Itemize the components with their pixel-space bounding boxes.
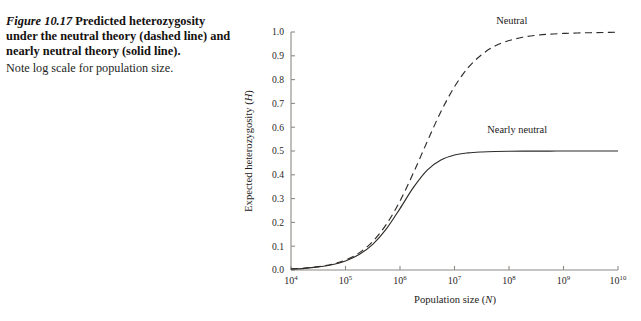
heterozygosity-line-chart: 0.00.10.20.30.40.50.60.70.80.91.0 104105… [0,0,641,321]
curve-nearly-neutral [291,151,618,269]
x-tick-label: 108 [502,274,516,286]
x-axis-tick-labels: 1041051061071081091010 [284,274,627,286]
y-axis-tick-labels: 0.00.10.20.30.40.50.60.70.80.91.0 [272,26,284,275]
y-tick-label: 0.8 [272,74,284,85]
y-tick-label: 0.4 [272,169,284,180]
y-tick-label: 0.7 [272,98,284,109]
x-tick-label: 106 [393,274,407,286]
x-tick-label: 1010 [610,274,627,286]
x-tick-label: 107 [448,274,462,286]
chart-area: 0.00.10.20.30.40.50.60.70.80.91.0 104105… [0,0,641,321]
y-axis-ticks [291,32,295,270]
y-tick-label: 0.9 [272,50,284,61]
series-label-neutral: Neutral [496,15,527,26]
x-tick-label: 105 [339,274,353,286]
y-tick-label: 0.0 [272,264,284,275]
figure-container: Figure 10.17 Predicted heterozygosity un… [0,0,641,321]
y-axis-title: Expected heterozygosity (H) [243,90,255,212]
y-tick-label: 1.0 [272,26,284,37]
y-tick-label: 0.1 [272,241,284,252]
y-tick-label: 0.5 [272,145,284,156]
y-tick-label: 0.2 [272,217,284,228]
y-tick-label: 0.6 [272,122,284,133]
series-label-nearly-neutral: Nearly neutral [487,124,547,135]
y-tick-label: 0.3 [272,193,284,204]
x-axis-title: Population size (N) [414,294,496,306]
x-tick-label: 109 [557,274,571,286]
x-tick-label: 104 [284,274,298,286]
x-axis-ticks [291,266,618,270]
